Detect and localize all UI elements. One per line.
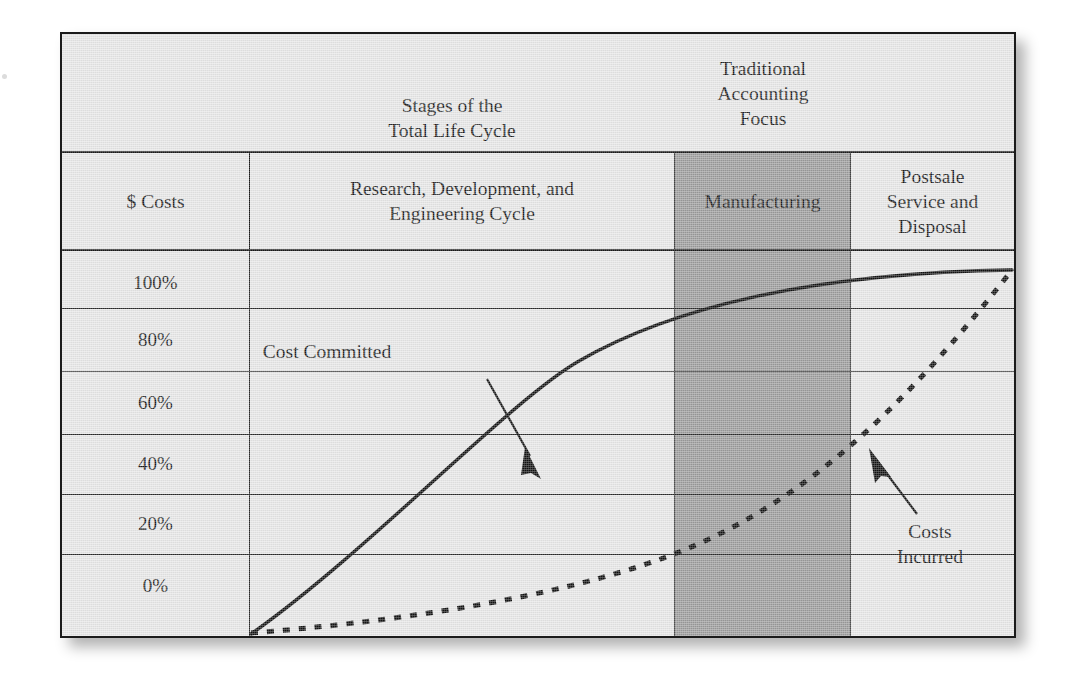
ytick-40: 40% bbox=[62, 454, 249, 474]
ytick-100: 100% bbox=[62, 273, 249, 293]
column-header-postsale: Postsale Service and Disposal bbox=[850, 153, 1014, 249]
plot-body: 100% 80% 60% 40% 20% 0% Cost Committed C… bbox=[62, 251, 1014, 636]
supertitle-traditional-accounting-focus: Traditional Accounting Focus bbox=[674, 56, 852, 131]
ytick-20: 20% bbox=[62, 514, 249, 534]
annotation-costs-incurred: Costs Incurred bbox=[870, 519, 990, 569]
column-header-row: $ Costs Research, Development, and Engin… bbox=[62, 153, 1014, 251]
life-cycle-cost-figure: Stages of the Total Life Cycle Tradition… bbox=[60, 32, 1016, 638]
supertitle-stages-of-total-life-cycle: Stages of the Total Life Cycle bbox=[307, 93, 597, 143]
column-header-rd-engineering: Research, Development, and Engineering C… bbox=[249, 153, 674, 249]
column-header-manufacturing: Manufacturing bbox=[674, 153, 850, 249]
cost-committed-arrow-shaft bbox=[487, 379, 530, 456]
costs-incurred-curve bbox=[251, 270, 1012, 633]
annotation-cost-committed: Cost Committed bbox=[222, 339, 432, 364]
ytick-0: 0% bbox=[62, 576, 249, 596]
costs-incurred-arrow-head bbox=[869, 448, 891, 483]
ytick-60: 60% bbox=[62, 393, 249, 413]
ytick-80: 80% bbox=[62, 330, 249, 350]
cost-committed-curve bbox=[251, 270, 1012, 634]
column-header-dollar-costs: $ Costs bbox=[62, 153, 249, 249]
page-speck bbox=[2, 74, 7, 79]
curves-overlay bbox=[249, 251, 1014, 636]
cost-committed-arrow-head bbox=[521, 447, 541, 479]
supertitle-row: Stages of the Total Life Cycle Tradition… bbox=[62, 34, 1014, 153]
